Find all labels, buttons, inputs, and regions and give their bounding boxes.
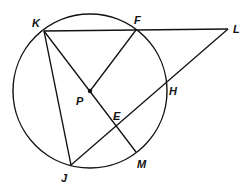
segment-kj	[44, 31, 71, 165]
center-point-p	[88, 89, 92, 93]
label-e: E	[113, 110, 121, 122]
geometry-diagram: K F L P H E M J	[0, 0, 251, 190]
label-l: L	[233, 23, 240, 35]
label-k: K	[32, 17, 41, 29]
label-h: H	[169, 85, 178, 97]
label-m: M	[137, 158, 147, 170]
label-p: P	[76, 95, 84, 107]
label-j: J	[61, 172, 68, 184]
segment-pf	[90, 30, 136, 91]
label-f: F	[134, 14, 141, 26]
